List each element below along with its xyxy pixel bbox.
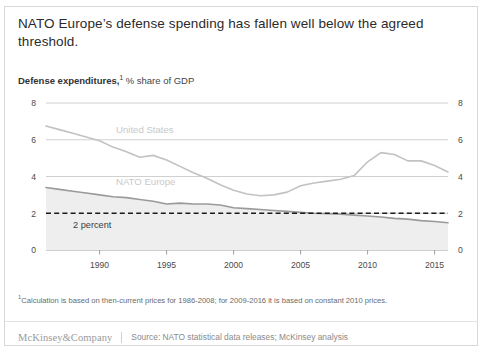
nato-europe-area	[46, 188, 448, 250]
footer-divider-rule	[5, 321, 478, 322]
series-label-united-states: United States	[116, 124, 174, 135]
source-text: Source: NATO statistical data releases; …	[131, 332, 348, 342]
two-percent-threshold-label: 2 percent	[73, 220, 112, 230]
x-axis-label-2005: 2005	[291, 260, 310, 270]
x-axis-label-1990: 1990	[90, 260, 109, 270]
footnote-text: Calculation is based on then-current pri…	[21, 296, 387, 305]
y-axis-label-right-0: 0	[458, 245, 463, 255]
chart-card: NATO Europe’s defense spending has falle…	[4, 6, 478, 346]
y-axis-label-left-6: 6	[31, 135, 36, 145]
y-axis-label-left-8: 8	[31, 98, 36, 108]
series-label-nato-europe: NATO Europe	[116, 176, 175, 187]
y-axis-label-right-8: 8	[458, 98, 463, 108]
y-axis-label-left-2: 2	[31, 209, 36, 219]
united-states-line	[46, 126, 448, 196]
x-axis-label-2015: 2015	[425, 260, 444, 270]
x-axis-label-2010: 2010	[358, 260, 377, 270]
chart-footer: McKinsey&Company Source: NATO statistica…	[18, 328, 465, 346]
chart-footnote: 1Calculation is based on then-current pr…	[18, 292, 465, 306]
mckinsey-logo: McKinsey&Company	[18, 332, 112, 343]
y-axis-label-left-0: 0	[31, 245, 36, 255]
y-axis-label-right-2: 2	[458, 209, 463, 219]
y-axis-label-right-4: 4	[458, 172, 463, 182]
y-axis-label-left-4: 4	[31, 172, 36, 182]
x-axis-label-2000: 2000	[224, 260, 243, 270]
footer-divider	[121, 332, 122, 343]
y-axis-label-right-6: 6	[458, 135, 463, 145]
x-axis-label-1995: 1995	[157, 260, 176, 270]
